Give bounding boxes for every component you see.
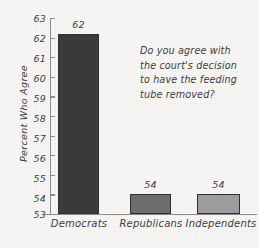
y-tick-label-61: 61: [24, 53, 46, 64]
annotation-line-2: the court's decision: [140, 59, 258, 74]
bar-democrats: [58, 34, 99, 214]
bar-value-independents: 54: [197, 179, 240, 190]
y-tick-label-63-wrap: 63: [24, 13, 46, 24]
y-tick-label-55: 55: [24, 173, 46, 184]
y-tick-label-60-wrap: 60: [24, 73, 46, 84]
y-tick-label-62: 62: [24, 33, 46, 44]
bar-value-republicans: 54: [130, 179, 171, 190]
y-tick-label-56-wrap: 56: [24, 153, 46, 164]
y-tick-label-61-wrap: 61: [24, 53, 46, 64]
y-tick-label-53: 53: [24, 209, 46, 220]
bar-independents: [197, 194, 240, 214]
annotation-line-4: tube removed?: [140, 88, 258, 103]
y-tick-label-54: 54: [24, 193, 46, 204]
bar-value-democrats: 62: [58, 19, 99, 30]
y-tick-label-56: 56: [24, 153, 46, 164]
y-tick-label-63: 63: [24, 13, 46, 24]
y-tick-label-57: 57: [24, 133, 46, 144]
bar-republicans: [130, 194, 171, 214]
x-category-label-democrats: Democrats: [44, 218, 114, 229]
y-tick-label-55-wrap: 55: [24, 173, 46, 184]
y-tick-label-57-wrap: 57: [24, 133, 46, 144]
annotation-line-1: Do you agree with: [140, 44, 258, 59]
y-tick-label-62-wrap: 62: [24, 33, 46, 44]
x-category-label-independents: Independents: [184, 218, 258, 229]
x-category-label-republicans: Republicans: [116, 218, 186, 229]
y-tick-label-58-wrap: 58: [24, 113, 46, 124]
y-tick-label-58: 58: [24, 113, 46, 124]
bar-chart: Percent Who Agree 63 62 61 60 59 58 57 5…: [0, 0, 259, 248]
y-tick-label-59: 59: [24, 93, 46, 104]
chart-annotation: Do you agree with the court's decision t…: [140, 44, 258, 102]
annotation-line-3: to have the feeding: [140, 73, 258, 88]
y-tick-label-54-wrap: 54: [24, 193, 46, 204]
y-tick-label-53-wrap: 53: [24, 209, 46, 220]
y-tick-label-59-wrap: 59: [24, 93, 46, 104]
y-axis-line: [50, 18, 51, 215]
x-axis-line: [44, 214, 257, 215]
y-tick-label-60: 60: [24, 73, 46, 84]
